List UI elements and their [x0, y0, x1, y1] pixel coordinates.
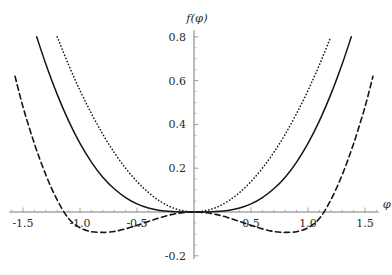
- y-tick-label: 0.8: [169, 31, 187, 44]
- x-axis-title: φ: [383, 197, 391, 211]
- plot-canvas: -1.5-1.0-0.50.51.01.5 -0.20.20.40.60.8 f…: [0, 0, 392, 275]
- x-tick-label: 1.5: [356, 217, 374, 230]
- chart-figure: -1.5-1.0-0.50.51.01.5 -0.20.20.40.60.8 f…: [0, 0, 392, 275]
- y-tick-label: -0.2: [165, 250, 186, 263]
- y-tick-label: 0.2: [169, 162, 187, 175]
- y-tick-label: 0.4: [169, 118, 187, 131]
- y-tick-label: 0.6: [169, 75, 187, 88]
- x-tick-label: -1.5: [12, 217, 33, 230]
- y-axis-title: f(φ): [185, 11, 207, 25]
